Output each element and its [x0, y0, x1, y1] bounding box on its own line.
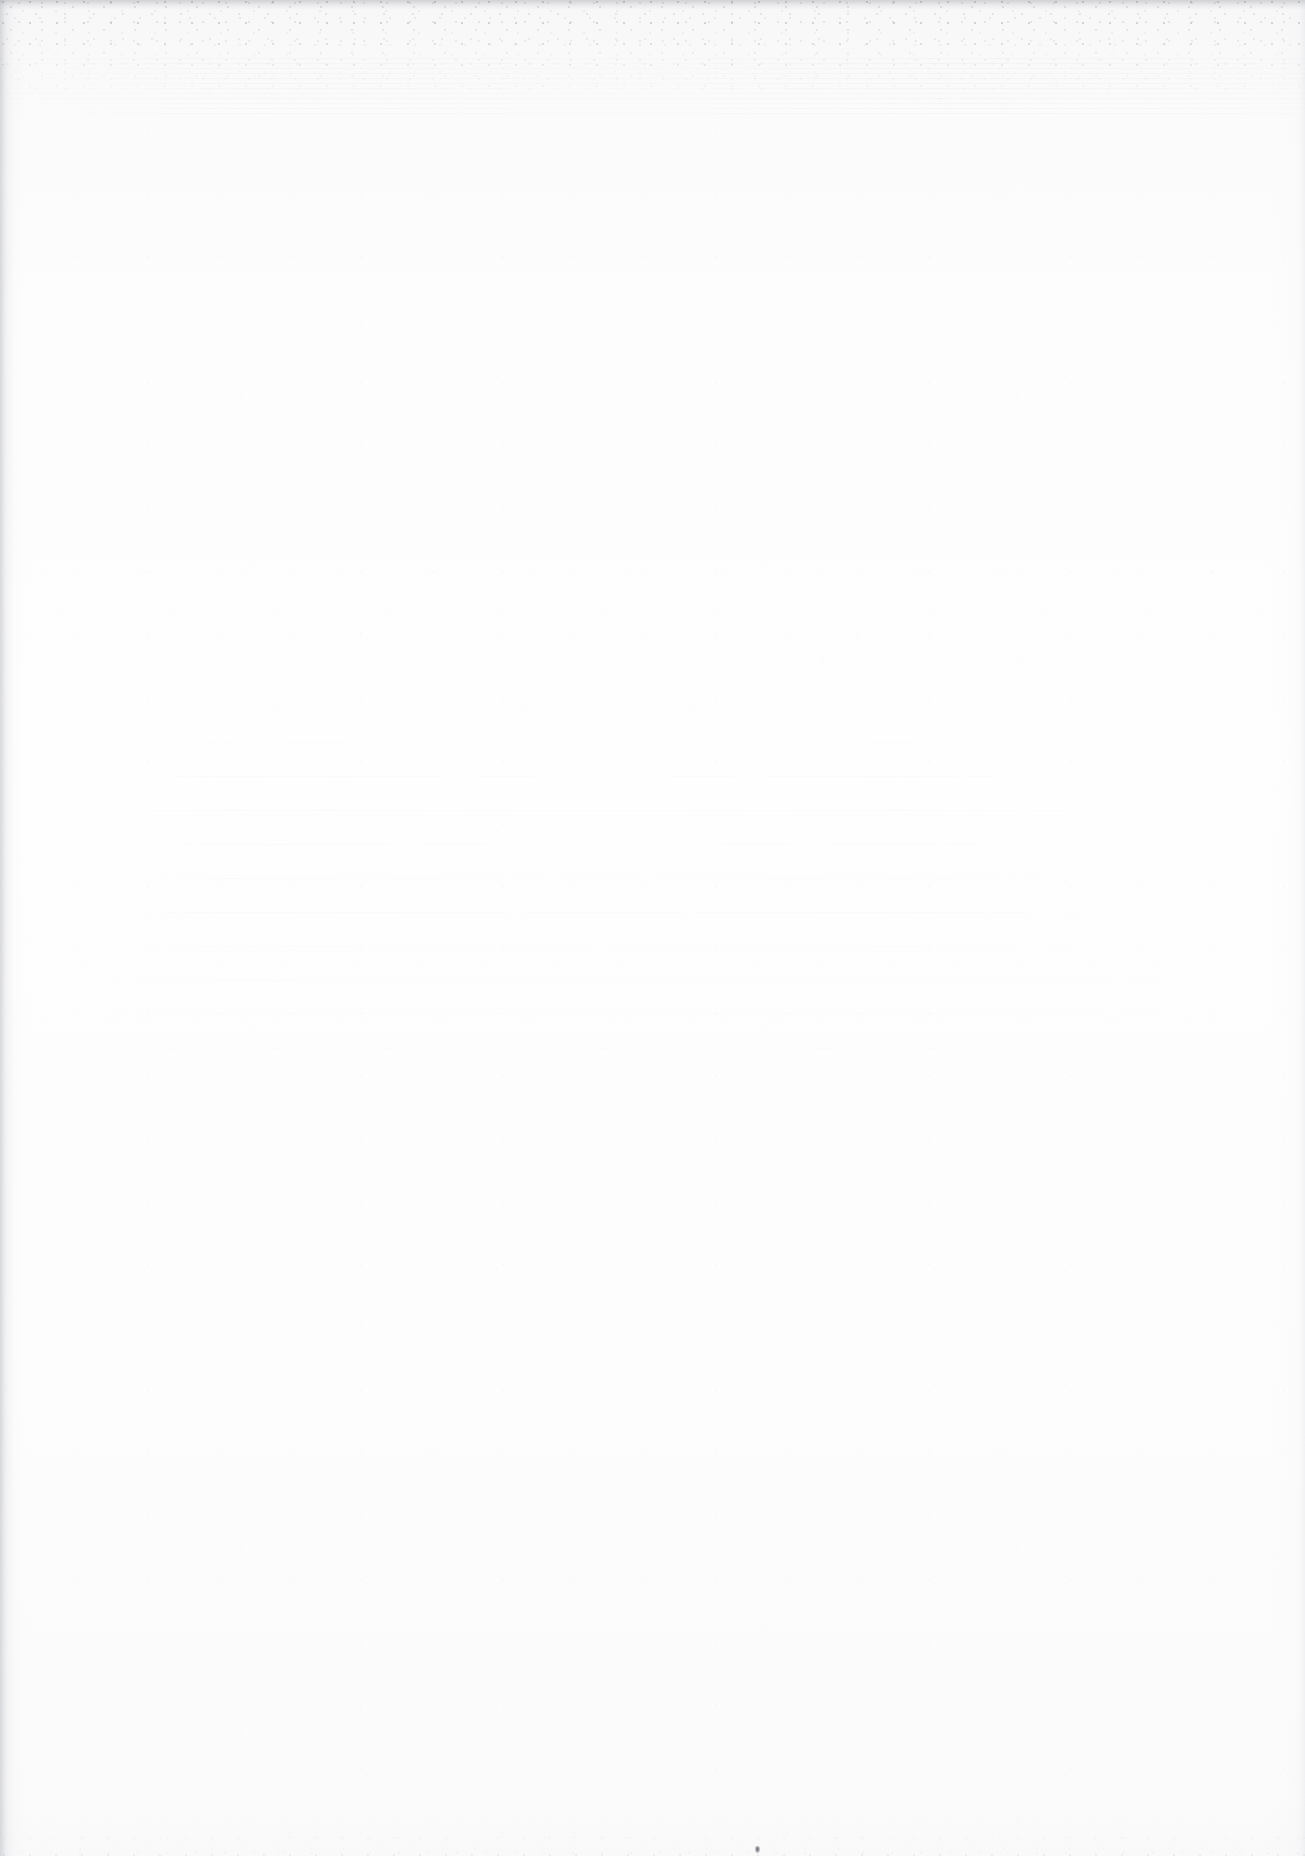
scanned-page	[0, 0, 1305, 1856]
bottom-edge-scan-grain	[0, 1818, 1305, 1856]
top-horizontal-streaks	[0, 58, 1305, 116]
right-edge-shadow	[1293, 0, 1305, 1856]
bleed-through-ghost-banding	[90, 640, 1220, 1420]
top-edge-shadow	[0, 0, 1305, 10]
left-edge-shadow	[0, 0, 14, 1856]
